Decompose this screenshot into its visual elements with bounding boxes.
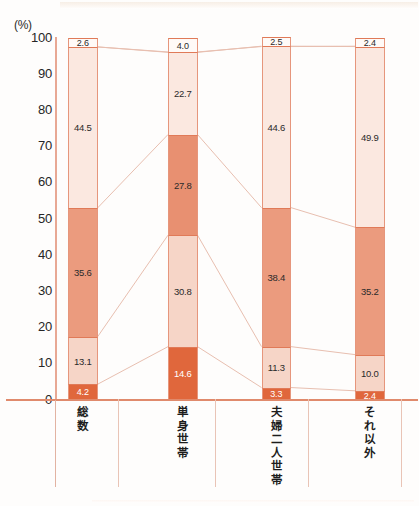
segment-value-label: 2.5	[270, 37, 282, 47]
segment-value-label: 44.6	[267, 122, 285, 133]
segment-value-label: 11.3	[268, 362, 285, 373]
category-label-char: 帯	[259, 474, 293, 488]
y-axis-tick-labels: 1009080706050403020100	[0, 0, 52, 506]
connector-line	[198, 235, 262, 346]
connector-line	[198, 46, 262, 52]
category-label-char: 二	[259, 433, 293, 447]
category-separator-4	[401, 399, 402, 487]
bar-1-segment-5: 2.6	[68, 38, 98, 47]
plot-area: (%) 1009080706050403020100 4.213.135.644…	[0, 0, 419, 506]
bar-2-segment-5: 4.0	[168, 38, 198, 52]
segment-value-label: 27.8	[174, 180, 192, 191]
bar-1-segment-1: 4.2	[68, 384, 98, 399]
bar-1: 4.213.135.644.52.6	[68, 38, 98, 400]
segment-value-label: 2.4	[364, 38, 376, 48]
connector-line	[98, 135, 169, 208]
y-axis-tick-90: 90	[6, 66, 52, 81]
bar-1-segment-2: 13.1	[68, 337, 98, 384]
category-separator-1	[118, 399, 119, 487]
bar-4-segment-3: 35.2	[355, 227, 385, 354]
y-axis-tick-50: 50	[6, 211, 52, 226]
connector-line	[98, 235, 169, 337]
bar-3-segment-4: 44.6	[262, 46, 292, 207]
connector-line	[291, 388, 355, 391]
connector-line-top	[98, 47, 169, 52]
y-axis-tick-80: 80	[6, 102, 52, 117]
bar-4-segment-5: 2.4	[355, 38, 385, 47]
category-label-1: 総数	[66, 406, 100, 433]
category-label-char: 世	[259, 460, 293, 474]
segment-value-label: 4.0	[177, 41, 189, 51]
y-axis-tick-60: 60	[6, 174, 52, 189]
category-label-char: 人	[259, 447, 293, 461]
category-label-char: 単	[166, 406, 200, 420]
segment-value-label: 13.1	[74, 356, 92, 367]
segment-value-label: 14.6	[174, 368, 192, 379]
bar-1-segment-3: 35.6	[68, 208, 98, 337]
segment-value-label: 38.4	[267, 272, 285, 283]
category-label-2: 単身世帯	[166, 406, 200, 460]
category-label-char: 夫	[259, 406, 293, 420]
segment-value-label: 30.8	[174, 286, 192, 297]
category-separator-3	[308, 399, 309, 487]
category-label-char: 身	[166, 420, 200, 434]
category-label-char: 外	[353, 447, 387, 461]
bar-2-segment-1: 14.6	[168, 347, 198, 400]
segment-value-label: 2.4	[364, 391, 376, 401]
bar-3: 3.311.338.444.62.5	[262, 38, 292, 400]
connector-line	[291, 347, 355, 355]
left-border-line	[55, 400, 56, 487]
bar-2-segment-3: 27.8	[168, 135, 198, 236]
segment-value-label: 3.3	[270, 389, 282, 399]
bar-3-segment-2: 11.3	[262, 347, 292, 388]
segment-value-label: 49.9	[361, 132, 379, 143]
segment-value-label: 2.6	[77, 38, 89, 48]
y-axis-tick-10: 10	[6, 355, 52, 370]
connector-line-top	[198, 47, 262, 52]
category-label-char: 総	[66, 406, 100, 420]
segment-value-label: 44.5	[74, 122, 92, 133]
category-label-char: れ	[353, 420, 387, 434]
connector-line	[198, 135, 262, 208]
y-axis-tick-20: 20	[6, 319, 52, 334]
category-label-char: 数	[66, 420, 100, 434]
category-label-char: 以	[353, 433, 387, 447]
bar-3-segment-3: 38.4	[262, 208, 292, 347]
connector-line	[291, 208, 355, 228]
bar-3-segment-1: 3.3	[262, 388, 292, 400]
chart-figure: (%) 1009080706050403020100 4.213.135.644…	[0, 0, 419, 506]
category-label-char: 世	[166, 433, 200, 447]
connector-line	[198, 347, 262, 388]
bar-1-segment-4: 44.5	[68, 47, 98, 208]
segment-value-label: 35.2	[361, 286, 379, 297]
bar-2-segment-4: 22.7	[168, 52, 198, 134]
bar-3-segment-5: 2.5	[262, 37, 292, 46]
category-label-3: 夫婦二人世帯	[259, 406, 293, 487]
bar-4: 2.410.035.249.92.4	[355, 38, 385, 400]
segment-value-label: 4.2	[77, 387, 89, 397]
category-label-4: それ以外	[353, 406, 387, 460]
y-axis-tick-70: 70	[6, 138, 52, 153]
category-separator-2	[215, 399, 216, 487]
y-axis-tick-40: 40	[6, 247, 52, 262]
y-axis-line	[55, 37, 57, 400]
segment-value-label: 35.6	[74, 267, 92, 278]
segment-value-label: 22.7	[174, 88, 192, 99]
category-label-char: 帯	[166, 447, 200, 461]
bar-4-segment-4: 49.9	[355, 47, 385, 228]
segment-value-label: 10.0	[361, 368, 379, 379]
bar-4-segment-1: 2.4	[355, 391, 385, 400]
y-axis-tick-30: 30	[6, 283, 52, 298]
category-label-char: 婦	[259, 420, 293, 434]
connector-line	[98, 347, 169, 385]
bar-4-segment-2: 10.0	[355, 355, 385, 391]
bar-2-segment-2: 30.8	[168, 235, 198, 346]
y-axis-tick-100: 100	[6, 30, 52, 45]
category-label-char: そ	[353, 406, 387, 420]
bar-2: 14.630.827.822.74.0	[168, 38, 198, 400]
connector-line	[98, 47, 169, 52]
